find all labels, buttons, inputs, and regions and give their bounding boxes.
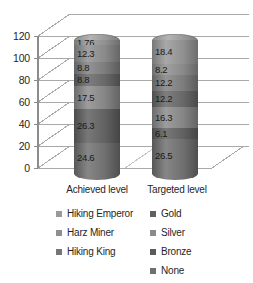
bar-segment-harz-miner[interactable]: 8.2 — [152, 64, 198, 75]
plot-area: 120 100 80 60 40 20 0 — [0, 0, 253, 200]
bar-segment-hiking-king[interactable]: 8.8 — [74, 62, 120, 74]
segment-value: 8.8 — [77, 63, 89, 73]
stacked-cylinder-chart: 120 100 80 60 40 20 0 — [0, 0, 253, 283]
legend-item-harz-miner[interactable]: Harz Miner — [56, 223, 133, 242]
segment-value: 12.2 — [155, 94, 172, 104]
bar-segment-hiking-emperor[interactable]: 18.4 — [152, 40, 198, 64]
legend-label: None — [161, 265, 184, 276]
x-label-targeted-level: Targeted level — [132, 184, 222, 195]
legend-swatch-icon — [56, 230, 62, 236]
segment-value: 17.5 — [77, 93, 94, 103]
legend-label: Gold — [161, 208, 181, 219]
legend-item-silver[interactable]: Silver — [150, 223, 192, 242]
y-tick-120: 120 — [2, 30, 30, 42]
y-tick-100: 100 — [2, 52, 30, 64]
bar-segment-silver[interactable]: 17.5 — [74, 86, 120, 109]
legend-label: Hiking King — [67, 246, 115, 257]
segment-value: 8.8 — [77, 75, 89, 85]
bar-segment-gold[interactable]: 12.2 — [152, 91, 198, 107]
segment-value: 6.1 — [155, 129, 167, 139]
legend-swatch-icon — [150, 268, 156, 274]
legend-swatch-icon — [150, 211, 156, 217]
bar-segment-silver[interactable]: 16.3 — [152, 107, 198, 128]
y-tick-0: 0 — [2, 162, 30, 174]
bar-segment-hiking-king[interactable]: 12.2 — [152, 75, 198, 91]
segment-value: 16.3 — [155, 113, 172, 123]
y-tick-20: 20 — [2, 140, 30, 152]
legend-column-right: Gold Silver Bronze None — [150, 204, 192, 280]
segment-value: 12.2 — [155, 78, 172, 88]
legend-item-none[interactable]: None — [150, 261, 192, 280]
legend-column-left: Hiking Emperor Harz Miner Hiking King — [56, 204, 133, 261]
legend-label: Bronze — [161, 246, 192, 257]
segment-value: 24.6 — [77, 153, 94, 163]
legend-label: Hiking Emperor — [67, 208, 133, 219]
y-tick-80: 80 — [2, 74, 30, 86]
legend-item-hiking-emperor[interactable]: Hiking Emperor — [56, 204, 133, 223]
bar-segment-gold[interactable]: 8.8 — [74, 74, 120, 86]
bar-cap-bottom — [152, 167, 198, 180]
floor-plane — [38, 146, 244, 168]
legend-item-hiking-king[interactable]: Hiking King — [56, 242, 133, 261]
x-label-achieved-level: Achieved level — [52, 184, 142, 195]
bar-achieved-level[interactable]: 1.76 12.3 — [74, 40, 120, 173]
y-tick-40: 40 — [2, 118, 30, 130]
segment-value: 26.3 — [77, 121, 94, 131]
segment-value: 8.2 — [155, 65, 167, 75]
y-tick-60: 60 — [2, 96, 30, 108]
segment-value: 18.4 — [155, 47, 172, 57]
legend-swatch-icon — [56, 211, 62, 217]
segment-value: 12.3 — [77, 49, 94, 59]
bar-targeted-level[interactable]: 18.4 8.2 — [152, 40, 198, 173]
legend-label: Harz Miner — [67, 227, 114, 238]
bar-segment-bronze[interactable]: 6.1 — [152, 128, 198, 139]
legend-swatch-icon — [150, 230, 156, 236]
legend-label: Silver — [161, 227, 185, 238]
legend-item-gold[interactable]: Gold — [150, 204, 192, 223]
bar-segment-harz-miner[interactable]: 12.3 — [74, 45, 120, 62]
segment-value: 26.5 — [155, 151, 172, 161]
bar-cap-bottom — [74, 167, 120, 180]
legend-item-bronze[interactable]: Bronze — [150, 242, 192, 261]
legend-swatch-icon — [150, 249, 156, 255]
chart-3d-frame — [0, 0, 253, 200]
chart-legend: Hiking Emperor Harz Miner Hiking King Go… — [0, 204, 253, 283]
legend-swatch-icon — [56, 249, 62, 255]
gridline-top — [38, 14, 249, 36]
bar-segment-bronze[interactable]: 26.3 — [74, 109, 120, 143]
